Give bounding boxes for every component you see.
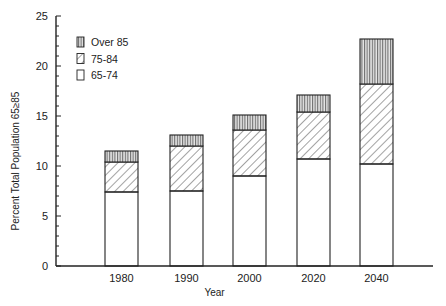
y-tick-label: 20 (36, 60, 48, 72)
legend-swatch (77, 70, 84, 80)
legend-label: Over 85 (91, 36, 129, 48)
x-axis-title: Year (204, 287, 225, 298)
bar-segment-75-84 (105, 162, 138, 192)
stacked-bar-chart: 19801990200020202040 0510152025YearPerce… (0, 0, 446, 306)
y-tick-label: 25 (36, 10, 48, 22)
bar-segment-over-85 (297, 95, 330, 112)
bar-segment-65-74 (233, 176, 266, 266)
y-tick-label: 15 (36, 110, 48, 122)
legend: Over 8575-8465-74 (77, 36, 129, 81)
x-tick-label: 1990 (174, 272, 198, 284)
x-tick-label: 2040 (364, 272, 388, 284)
bar-segment-over-85 (105, 151, 138, 162)
bar-segment-over-85 (360, 39, 393, 84)
bars-group: 19801990200020202040 (105, 39, 393, 284)
bar-segment-65-74 (360, 164, 393, 266)
legend-swatch (77, 37, 84, 47)
bar-segment-75-84 (360, 84, 393, 164)
y-tick-label: 5 (42, 210, 48, 222)
x-tick-label: 2000 (237, 272, 261, 284)
legend-label: 65-74 (91, 69, 118, 81)
bar-segment-over-85 (233, 115, 266, 130)
bar-segment-65-74 (297, 159, 330, 266)
legend-swatch (77, 54, 84, 64)
bar-segment-over-85 (170, 135, 203, 146)
y-tick-label: 0 (42, 260, 48, 272)
bar-segment-75-84 (233, 130, 266, 176)
bar-segment-75-84 (297, 112, 330, 159)
bar-segment-65-74 (170, 191, 203, 266)
y-tick-label: 10 (36, 160, 48, 172)
bar-segment-65-74 (105, 192, 138, 266)
x-tick-label: 2020 (301, 272, 325, 284)
bar-segment-75-84 (170, 146, 203, 191)
y-axis-title: Percent Total Population 65≥85 (10, 91, 21, 230)
legend-label: 75-84 (91, 53, 118, 65)
x-tick-label: 1980 (109, 272, 133, 284)
